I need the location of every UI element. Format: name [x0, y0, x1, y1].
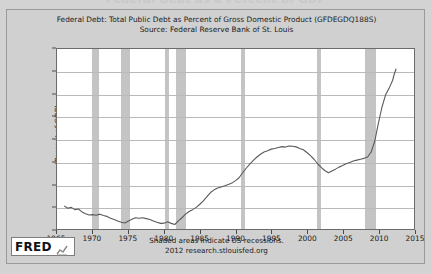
- plot-wrapper: (Percent of GDP) 30405060708090100110 19…: [50, 39, 416, 231]
- fred-logo[interactable]: FRED: [11, 237, 75, 256]
- fred-wordmark: FRED: [15, 240, 52, 254]
- x-axis-tick: [271, 230, 272, 234]
- line-chart-icon: [56, 241, 68, 252]
- x-axis-tick: [200, 230, 201, 234]
- chart-title: Federal Debt: Total Public Debt as Perce…: [7, 15, 426, 25]
- chart-title-block: Federal Debt: Total Public Debt as Perce…: [7, 15, 426, 35]
- debt-series-line: [57, 49, 414, 229]
- x-axis-tick: [236, 230, 237, 234]
- x-axis-tick: [343, 230, 344, 234]
- x-axis-tick: [164, 230, 165, 234]
- x-axis-tick: [307, 230, 308, 234]
- x-axis-tick: [379, 230, 380, 234]
- x-axis-tick: [128, 230, 129, 234]
- plot-area: [56, 48, 415, 230]
- x-axis-tick: [56, 230, 57, 234]
- chart-subtitle: Source: Federal Reserve Bank of St. Loui…: [7, 25, 426, 35]
- clipped-headline: Federal Debt as a Percent of GDP: [0, 0, 432, 3]
- x-axis-tick: [92, 230, 93, 234]
- fred-chart-screenshot: Federal Debt as a Percent of GDP Federal…: [0, 0, 432, 274]
- chart-frame: Federal Debt: Total Public Debt as Perce…: [6, 9, 425, 264]
- x-axis-tick: [415, 230, 416, 234]
